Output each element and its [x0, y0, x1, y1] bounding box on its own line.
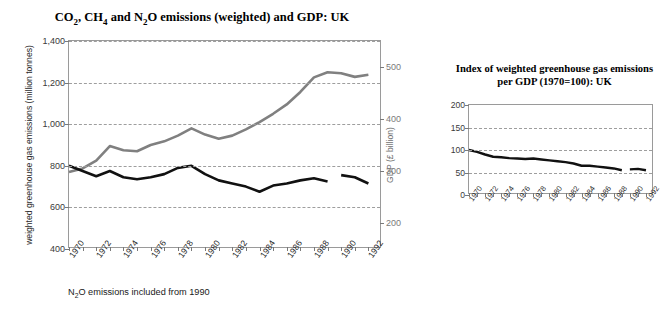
x-tickmark	[273, 247, 274, 251]
y-axis-tick-label: 50	[441, 168, 465, 178]
y-axis-tick-label: 200	[441, 100, 465, 110]
x-tickmark	[493, 193, 494, 197]
side-chart-title: Index of weighted greenhouse gas emissio…	[452, 62, 657, 88]
gridline	[69, 124, 380, 125]
gridline	[69, 83, 380, 84]
y2-axis-tick-label: 500	[386, 62, 418, 72]
x-tickmark	[110, 247, 111, 251]
side-chart-plot-area: 050100150200 197019721974197619781980198…	[468, 104, 653, 194]
gridline	[69, 41, 380, 42]
x-tickmark	[622, 193, 623, 197]
x-tickmark	[590, 193, 591, 197]
x-tickmark	[477, 193, 478, 197]
y2-tickmark	[380, 119, 384, 120]
main-chart-plot-area: 4006008001,0001,2001,400200300400500 197…	[68, 40, 381, 248]
y-tickmark	[65, 166, 69, 167]
y-axis-tick-label: 0	[441, 190, 465, 200]
main-chart-right-axis-label: GDP (£ billion)	[385, 95, 395, 215]
gridline	[469, 150, 652, 151]
y-axis-tick-label: 150	[441, 123, 465, 133]
y2-axis-tick-label: 200	[386, 218, 418, 228]
y-tickmark	[465, 105, 469, 106]
y-axis-tick-label: 100	[441, 145, 465, 155]
x-tickmark	[638, 193, 639, 197]
x-tickmark	[355, 247, 356, 251]
y-axis-tick-label: 1,400	[25, 36, 65, 46]
y-tickmark	[465, 150, 469, 151]
y-axis-tick-label: 800	[25, 161, 65, 171]
y-axis-tick-label: 1,000	[25, 119, 65, 129]
y-axis-tick-label: 400	[25, 244, 65, 254]
x-tickmark	[557, 193, 558, 197]
y-tickmark	[465, 128, 469, 129]
y-tickmark	[465, 173, 469, 174]
y-tickmark	[65, 41, 69, 42]
main-chart-series-svg	[69, 41, 382, 249]
x-tickmark	[83, 247, 84, 251]
gridline	[469, 173, 652, 174]
y2-tickmark	[380, 223, 384, 224]
main-chart-left-axis-label: weighted greenhouse gas emissions (milli…	[24, 30, 34, 260]
x-tickmark	[219, 247, 220, 251]
y-axis-tick-label: 600	[25, 202, 65, 212]
y2-tickmark	[380, 67, 384, 68]
x-tickmark	[191, 247, 192, 251]
y-tickmark	[65, 124, 69, 125]
x-tickmark	[246, 247, 247, 251]
x-tickmark	[509, 193, 510, 197]
x-tickmark	[574, 193, 575, 197]
y-axis-tick-label: 1,200	[25, 78, 65, 88]
y2-tickmark	[380, 171, 384, 172]
x-tickmark	[541, 193, 542, 197]
x-tickmark	[606, 193, 607, 197]
y2-axis-tick-label: 300	[386, 166, 418, 176]
main-chart-title: CO2, CH4 and N2O emissions (weighted) an…	[42, 10, 362, 28]
main-chart-footnote: N2O emissions included from 1990	[68, 287, 210, 299]
x-tickmark	[525, 193, 526, 197]
x-tickmark	[300, 247, 301, 251]
x-tickmark	[164, 247, 165, 251]
gridline	[69, 166, 380, 167]
gridline	[69, 207, 380, 208]
x-tickmark	[137, 247, 138, 251]
side-chart-panel: Index of weighted greenhouse gas emissio…	[430, 0, 671, 315]
y-tickmark	[65, 207, 69, 208]
y2-axis-tick-label: 400	[386, 114, 418, 124]
gridline	[469, 128, 652, 129]
x-tickmark	[328, 247, 329, 251]
main-chart-panel: CO2, CH4 and N2O emissions (weighted) an…	[0, 0, 430, 315]
y-tickmark	[65, 83, 69, 84]
